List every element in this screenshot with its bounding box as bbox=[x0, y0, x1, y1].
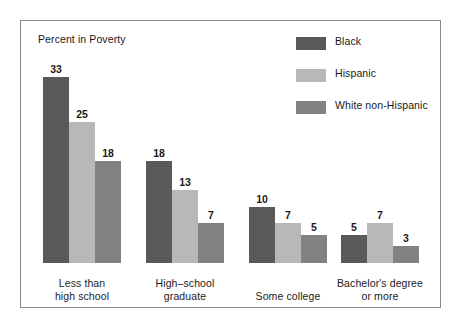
bar-value-label: 7 bbox=[367, 210, 393, 221]
bar[interactable] bbox=[341, 235, 367, 263]
chart-figure: Percent in Poverty BlackHispanicWhite no… bbox=[0, 0, 466, 331]
category-label-line: Bachelor's degree bbox=[310, 277, 450, 290]
bar[interactable] bbox=[172, 190, 198, 263]
plot-area: 332518Less thanhigh school18137High–scho… bbox=[21, 21, 442, 309]
bar[interactable] bbox=[43, 77, 69, 263]
bar-group: 332518 bbox=[43, 67, 121, 263]
bar[interactable] bbox=[95, 161, 121, 263]
category-label-line: or more bbox=[310, 290, 450, 303]
bar-group: 18137 bbox=[146, 67, 224, 263]
bar-value-label: 3 bbox=[393, 233, 419, 244]
bar-group: 573 bbox=[341, 67, 419, 263]
bar-value-label: 18 bbox=[95, 148, 121, 159]
bar[interactable] bbox=[275, 223, 301, 263]
bar[interactable] bbox=[367, 223, 393, 263]
bar[interactable] bbox=[249, 207, 275, 264]
category-label: Bachelor's degreeor more bbox=[310, 277, 450, 303]
bar-value-label: 7 bbox=[198, 210, 224, 221]
bar-value-label: 5 bbox=[341, 222, 367, 233]
bar[interactable] bbox=[393, 246, 419, 263]
chart-frame: Percent in Poverty BlackHispanicWhite no… bbox=[20, 20, 441, 308]
bar[interactable] bbox=[146, 161, 172, 263]
bar-group: 1075 bbox=[249, 67, 327, 263]
bar[interactable] bbox=[69, 122, 95, 263]
bar[interactable] bbox=[198, 223, 224, 263]
bar-value-label: 7 bbox=[275, 210, 301, 221]
category-label-line: High–school bbox=[115, 277, 255, 290]
bar-value-label: 25 bbox=[69, 109, 95, 120]
bar-value-label: 10 bbox=[249, 194, 275, 205]
bar[interactable] bbox=[301, 235, 327, 263]
bar-value-label: 13 bbox=[172, 177, 198, 188]
bar-value-label: 18 bbox=[146, 148, 172, 159]
bar-value-label: 33 bbox=[43, 64, 69, 75]
bar-value-label: 5 bbox=[301, 222, 327, 233]
